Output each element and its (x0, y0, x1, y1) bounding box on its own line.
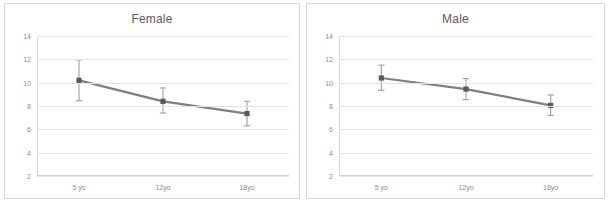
gridline (37, 176, 289, 177)
x-axis-tick-label: 12yo (155, 184, 170, 191)
y-axis-tick-label: 12 (23, 56, 31, 63)
gridline (339, 176, 593, 177)
gridline (37, 83, 289, 84)
x-axis-tick-label: 12yo (458, 184, 473, 191)
cropped-caption-strip (0, 204, 609, 217)
page-title: Female (5, 12, 299, 26)
y-axis-tick-label: 10 (325, 79, 333, 86)
y-axis-tick-label: 12 (325, 56, 333, 63)
y-axis-tick-label: 2 (27, 173, 31, 180)
y-axis-tick-label: 14 (23, 33, 31, 40)
y-axis-tick-label: 6 (329, 126, 333, 133)
plot-area-male: 14121086425 yo12yo18yo (339, 36, 593, 176)
gridline (37, 36, 289, 37)
gridline (339, 36, 593, 37)
gridline (37, 129, 289, 130)
gridline (339, 83, 593, 84)
y-axis-tick-label: 8 (329, 103, 333, 110)
y-axis-tick-label: 2 (329, 173, 333, 180)
x-axis-tick-label: 18yo (543, 184, 558, 191)
y-axis-tick-label: 6 (27, 126, 31, 133)
gridline (37, 106, 289, 107)
gridline (339, 59, 593, 60)
gridline (339, 106, 593, 107)
x-axis-tick-label: 5 yo (375, 184, 388, 191)
plot-area-female: 14121086425 yo12yo18yo (37, 36, 289, 176)
chart-panel-female: Female 14121086425 yo12yo18yo (4, 3, 300, 199)
chart-panel-male: Male 14121086425 yo12yo18yo (306, 3, 605, 199)
y-axis-tick-label: 10 (23, 79, 31, 86)
x-axis-tick-label: 5 yo (72, 184, 85, 191)
gridline (37, 153, 289, 154)
page-title: Male (307, 12, 604, 26)
x-axis-tick-label: 18yo (239, 184, 254, 191)
gridline (339, 129, 593, 130)
gridline (339, 153, 593, 154)
two-panel-chart-figure: Female 14121086425 yo12yo18yo Male 14121… (0, 0, 609, 217)
y-axis-tick-label: 4 (27, 149, 31, 156)
y-axis-tick-label: 4 (329, 149, 333, 156)
y-axis-tick-label: 8 (27, 103, 31, 110)
y-axis-tick-label: 14 (325, 33, 333, 40)
gridline (37, 59, 289, 60)
